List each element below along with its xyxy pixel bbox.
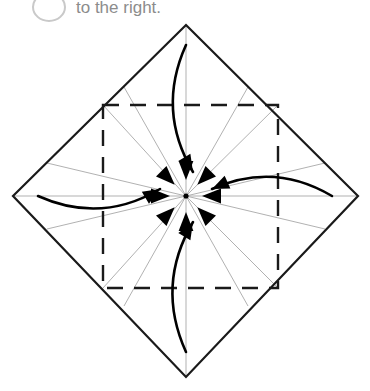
- inner-dashed-square: [103, 105, 278, 288]
- center-arrowhead-2: [151, 189, 170, 204]
- center-point: [183, 193, 188, 198]
- crease-line-7: [186, 196, 248, 306]
- crease-line-15: [124, 87, 186, 196]
- crease-line-9: [124, 196, 186, 306]
- dashed-square-group: [103, 105, 278, 288]
- crease-lines-group: [13, 25, 358, 377]
- fold-arrow-right: [212, 177, 332, 196]
- center-point-group: [183, 193, 188, 198]
- outer-outline-group: [13, 25, 358, 377]
- center-arrowhead-1: [156, 166, 175, 185]
- fold-arrow-right-head: [212, 176, 230, 189]
- origami-fold-diagram: [0, 0, 370, 391]
- center-arrowhead-3: [156, 207, 175, 226]
- paper-diamond-outline: [13, 25, 358, 377]
- fold-arrow-top: [173, 45, 193, 172]
- center-arrowhead-6: [202, 189, 221, 204]
- fold-arrow-left: [38, 189, 160, 209]
- center-arrowhead-4: [179, 212, 194, 231]
- diagram-stage: to the right.: [0, 0, 370, 391]
